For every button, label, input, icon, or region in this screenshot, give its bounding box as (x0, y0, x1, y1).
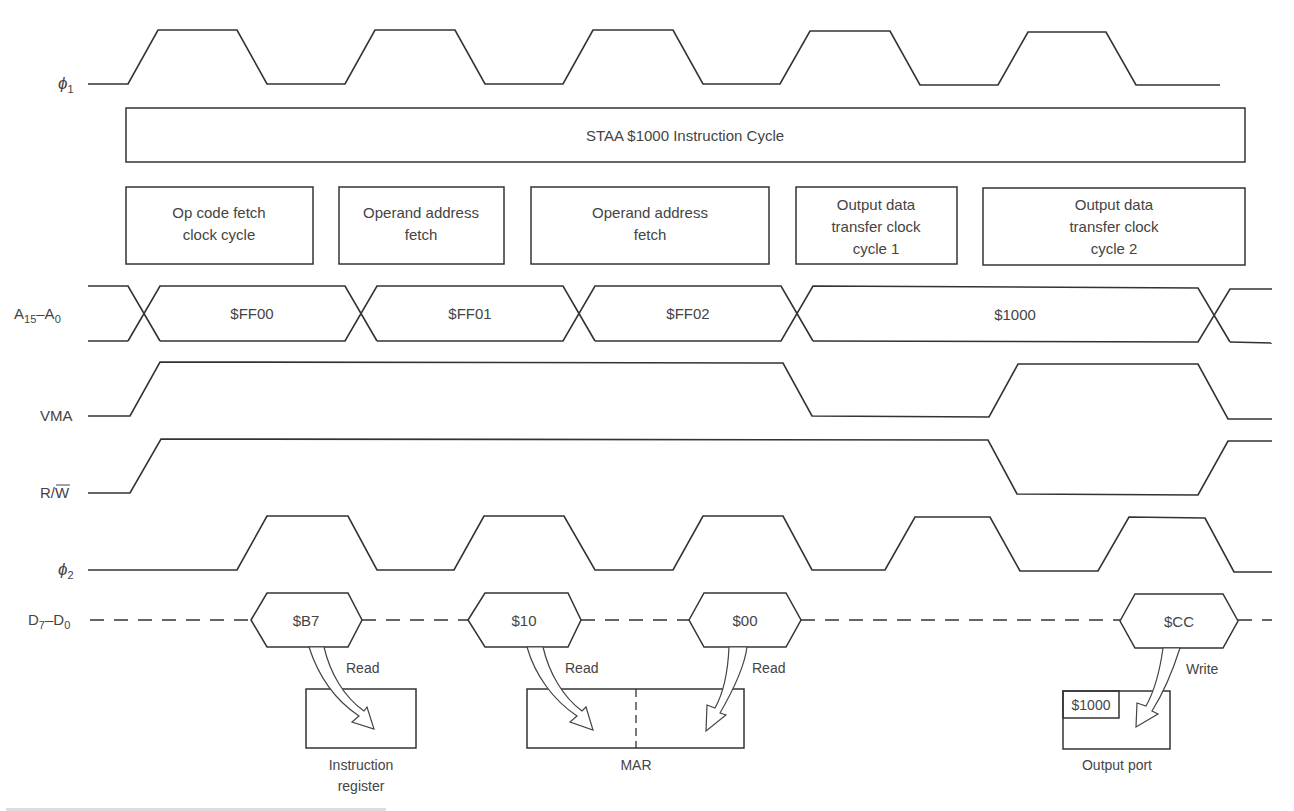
svg-text:cycle 1: cycle 1 (853, 240, 900, 257)
svg-text:fetch: fetch (405, 226, 438, 243)
write-arrow-cc: Write (1136, 648, 1219, 727)
svg-text:MAR: MAR (620, 757, 651, 773)
vma-waveform (88, 362, 1272, 419)
svg-text:Op code fetch: Op code fetch (172, 204, 265, 221)
svg-text:Read: Read (565, 660, 598, 676)
phi1-label: ϕ1 (58, 74, 74, 95)
address-value-ff01: $FF01 (448, 305, 491, 322)
address-bus-top (88, 286, 160, 341)
curved-arrow-icon (1136, 648, 1180, 727)
data-value-00: $00 (689, 593, 801, 647)
svg-text:$10: $10 (511, 612, 536, 629)
vma-label: VMA (40, 407, 73, 424)
svg-text:Output data: Output data (837, 196, 916, 213)
phi2-waveform (88, 516, 1272, 572)
phi1-waveform (88, 30, 1220, 85)
cycle-box-opcode-fetch: Op code fetch clock cycle (126, 187, 313, 264)
data-bus-label: D7–D0 (28, 611, 70, 631)
cycle-box-output-transfer-2: Output data transfer clock cycle 2 (983, 188, 1245, 265)
svg-text:transfer clock: transfer clock (1069, 218, 1159, 235)
instruction-cycle-title: STAA $1000 Instruction Cycle (586, 127, 784, 144)
vma-signal: VMA (40, 362, 1272, 424)
read-arrow-b7: Read (309, 647, 379, 729)
data-value-b7: $B7 (251, 593, 362, 647)
svg-text:Read: Read (346, 660, 379, 676)
data-value-10: $10 (468, 593, 581, 647)
svg-text:transfer clock: transfer clock (831, 218, 921, 235)
svg-text:Output port: Output port (1082, 757, 1152, 773)
svg-text:Write: Write (1186, 661, 1219, 677)
phi2-label: ϕ2 (58, 560, 74, 581)
cycle-box-operand-fetch-1: Operand address fetch (339, 187, 504, 264)
svg-text:$00: $00 (732, 612, 757, 629)
clock-cycle-boxes: Op code fetch clock cycle Operand addres… (126, 187, 1245, 265)
data-bus-signal: D7–D0 $B7 $10 $00 $CC (28, 593, 1272, 648)
rw-waveform (88, 439, 1272, 495)
instruction-register: Instruction register (306, 689, 416, 794)
svg-text:clock cycle: clock cycle (183, 226, 256, 243)
rw-signal: R/W (40, 439, 1272, 501)
instruction-cycle: STAA $1000 Instruction Cycle (126, 108, 1245, 162)
svg-text:Instruction: Instruction (329, 757, 394, 773)
address-value-ff02: $FF02 (666, 305, 709, 322)
cycle-box-output-transfer-1: Output data transfer clock cycle 1 (796, 187, 957, 264)
svg-text:Operand address: Operand address (592, 204, 708, 221)
svg-text:$B7: $B7 (293, 612, 320, 629)
phi1-signal: ϕ1 (58, 30, 1220, 95)
address-bus-signal: A15–A0 $FF00 $FF01 $FF02 $1000 (14, 286, 1272, 343)
data-value-cc: $CC (1120, 594, 1238, 648)
address-bus-label: A15–A0 (14, 305, 61, 325)
svg-text:Read: Read (752, 660, 785, 676)
phi2-signal: ϕ2 (58, 516, 1272, 581)
address-value-ff00: $FF00 (230, 305, 273, 322)
address-value-1000: $1000 (994, 306, 1036, 323)
svg-text:cycle 2: cycle 2 (1091, 240, 1138, 257)
svg-text:Operand address: Operand address (363, 204, 479, 221)
svg-text:fetch: fetch (634, 226, 667, 243)
svg-text:$1000: $1000 (1072, 697, 1111, 713)
svg-text:register: register (338, 778, 385, 794)
rw-label: R/W (40, 484, 70, 501)
svg-text:Output data: Output data (1075, 196, 1154, 213)
svg-text:$CC: $CC (1164, 613, 1194, 630)
timing-diagram: ϕ1 STAA $1000 Instruction Cycle Op code … (0, 0, 1294, 811)
cycle-box-operand-fetch-2: Operand address fetch (531, 187, 769, 264)
